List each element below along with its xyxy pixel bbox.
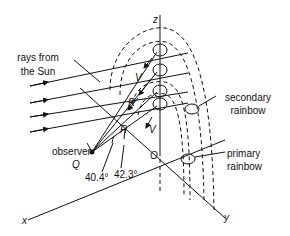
rainbow-diagram: z x y O rays from the Sun secondary rain… bbox=[0, 0, 290, 236]
y-axis-label: y bbox=[224, 212, 229, 223]
primary-rainbow-label-1: primary bbox=[227, 148, 260, 159]
sun-rays-label-1: rays from bbox=[14, 52, 62, 63]
sun-rays-label-2: the Sun bbox=[14, 66, 62, 77]
primary-rainbow-label-2: rainbow bbox=[227, 161, 262, 172]
observer-label: observer bbox=[52, 146, 91, 157]
secondary-rainbow-label-2: rainbow bbox=[220, 105, 276, 116]
red-bottom-label: R bbox=[120, 124, 127, 135]
angle-40-4-label: 40.4° bbox=[85, 172, 108, 183]
z-axis-label: z bbox=[153, 14, 158, 25]
secondary-rainbow-label-1: secondary bbox=[220, 92, 276, 103]
red-top-label: R bbox=[128, 97, 135, 108]
origin-label: O bbox=[150, 150, 158, 161]
violet-top-label: V bbox=[135, 72, 142, 83]
x-axis-label: x bbox=[22, 215, 27, 226]
observer-point-label: Q bbox=[72, 159, 80, 170]
angle-42-3-label: 42.3° bbox=[114, 169, 137, 180]
violet-bottom-label: V bbox=[149, 124, 156, 135]
diagram-drawing bbox=[0, 0, 290, 236]
